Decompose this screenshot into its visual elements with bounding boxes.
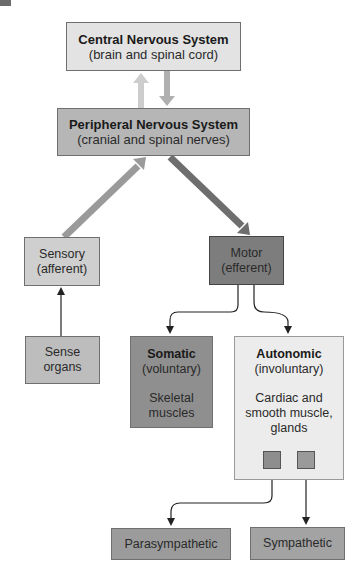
motor-to-autonomic-arrow	[254, 285, 288, 330]
motor-box: Motor (efferent)	[209, 236, 284, 285]
motor-sublabel: (efferent)	[221, 261, 272, 276]
cns-subtitle: (brain and spinal cord)	[89, 47, 218, 62]
pns-title: Peripheral Nervous System	[69, 117, 238, 132]
sensory-label: Sensory	[39, 247, 85, 262]
somatic-title: Somatic	[147, 347, 196, 362]
connector-arrows	[0, 0, 363, 587]
pns-subtitle: (cranial and spinal nerves)	[77, 132, 229, 147]
cns-title: Central Nervous System	[78, 32, 228, 47]
parasympathetic-branch-node	[263, 451, 281, 469]
autonomic-desc-2: smooth muscle,	[245, 406, 333, 421]
motor-label: Motor	[231, 246, 263, 261]
autonomic-box: Autonomic (involuntary) Cardiac and smoo…	[234, 336, 344, 480]
somatic-desc-1: Skeletal	[149, 391, 193, 406]
autonomic-desc-3: glands	[271, 421, 308, 436]
sensory-sublabel: (afferent)	[37, 262, 88, 277]
autonomic-subtitle: (involuntary)	[255, 362, 324, 377]
somatic-box: Somatic (voluntary) Skeletal muscles	[130, 336, 213, 428]
sympathetic-box: Sympathetic	[250, 527, 345, 560]
pns-to-motor-arrow	[170, 157, 250, 235]
central-nervous-system-box: Central Nervous System (brain and spinal…	[66, 22, 241, 71]
peripheral-nervous-system-box: Peripheral Nervous System (cranial and s…	[57, 108, 250, 156]
sympathetic-branch-node	[297, 451, 315, 469]
sense-organs-line2: organs	[43, 360, 81, 375]
pns-to-cns-arrow	[133, 73, 149, 108]
sympathetic-label: Sympathetic	[263, 536, 332, 551]
sensory-to-pns-arrow	[64, 157, 146, 237]
somatic-subtitle: (voluntary)	[142, 362, 201, 377]
motor-to-somatic-arrow	[170, 285, 238, 330]
parasympathetic-label: Parasympathetic	[124, 537, 217, 552]
parasympathetic-box: Parasympathetic	[111, 528, 231, 560]
sensory-box: Sensory (afferent)	[24, 237, 100, 286]
autonomic-title: Autonomic	[256, 347, 321, 362]
sense-organs-box: Sense organs	[25, 336, 100, 384]
somatic-desc-2: muscles	[149, 406, 195, 421]
autonomic-desc-1: Cardiac and	[255, 391, 322, 406]
sense-organs-line1: Sense	[45, 345, 80, 360]
cns-to-pns-arrow	[159, 71, 175, 106]
